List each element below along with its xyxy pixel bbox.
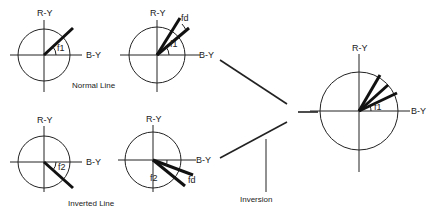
r-y-label: R-Y xyxy=(150,8,166,18)
b-y-label: B-Y xyxy=(411,106,426,116)
angle-label: f2 xyxy=(58,162,66,172)
deviated-vector xyxy=(153,160,185,186)
deviation-label: fd xyxy=(188,175,196,185)
normal-line-caption: Normal Line xyxy=(72,81,116,90)
phase-inversion-diagram: R-Y B-Y f1 Normal Line R-Y B-Y f1 fd R-Y… xyxy=(0,0,436,213)
deviation-arc xyxy=(182,24,186,30)
normal-connector xyxy=(220,60,287,104)
deviated-vector xyxy=(157,18,180,55)
angle-label: f1 xyxy=(170,39,178,49)
angle-label: f1 xyxy=(57,43,65,53)
inversion-caption: Inversion xyxy=(240,195,272,204)
b-y-label: B-Y xyxy=(196,155,211,165)
panel-inverted-single: R-Y B-Y f2 xyxy=(10,115,101,192)
r-y-label: R-Y xyxy=(146,114,162,124)
b-y-label: B-Y xyxy=(86,157,101,167)
burst-vector xyxy=(153,160,193,175)
angle-arc xyxy=(53,162,56,170)
panel-inverted-deviation: R-Y B-Y f2 fd xyxy=(118,114,211,192)
r-y-label: R-Y xyxy=(37,115,53,125)
panel-normal-single: R-Y B-Y f1 xyxy=(10,8,101,92)
panel-normal-deviation: R-Y B-Y f1 fd xyxy=(120,8,214,92)
angle-arc xyxy=(166,47,169,55)
r-y-label: R-Y xyxy=(37,8,53,18)
panel-result: R-Y B-Y f1 xyxy=(310,43,426,172)
inverted-line-caption: Inverted Line xyxy=(68,199,115,208)
b-y-label: B-Y xyxy=(199,50,214,60)
r-y-label: R-Y xyxy=(352,43,368,53)
angle-arc xyxy=(53,47,56,55)
angle-label: f1 xyxy=(374,102,382,112)
deviation-label: fd xyxy=(181,13,189,23)
angle-label: f2 xyxy=(150,173,158,183)
connector-lines xyxy=(220,60,318,192)
b-y-label: B-Y xyxy=(86,50,101,60)
inverted-connector xyxy=(220,122,287,158)
